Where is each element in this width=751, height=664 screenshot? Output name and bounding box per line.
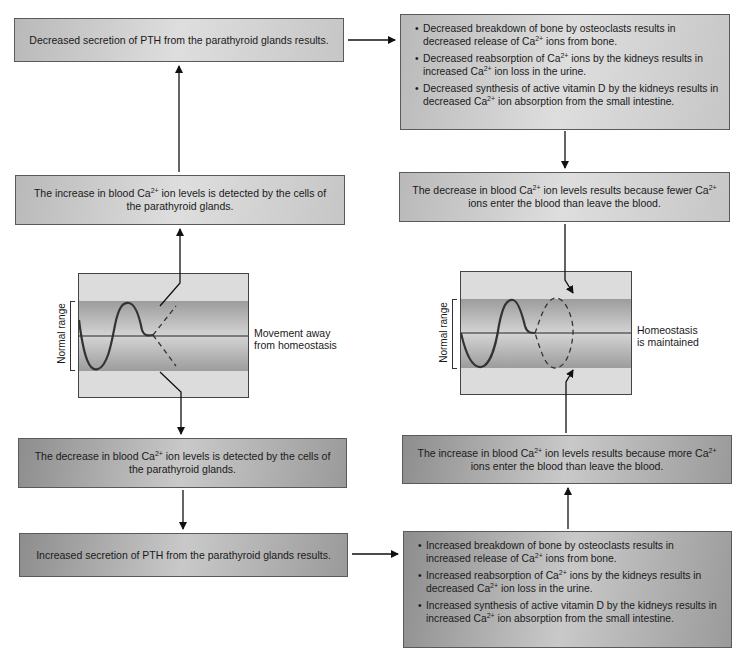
connectors-overlay: [0, 0, 751, 664]
arrow-up: [566, 370, 573, 433]
arrow-up: [160, 229, 180, 306]
arrow-down: [565, 224, 573, 293]
arrow-down: [160, 372, 181, 434]
set-point-line: [78, 333, 631, 336]
fluctuation-curve: [79, 300, 535, 370]
